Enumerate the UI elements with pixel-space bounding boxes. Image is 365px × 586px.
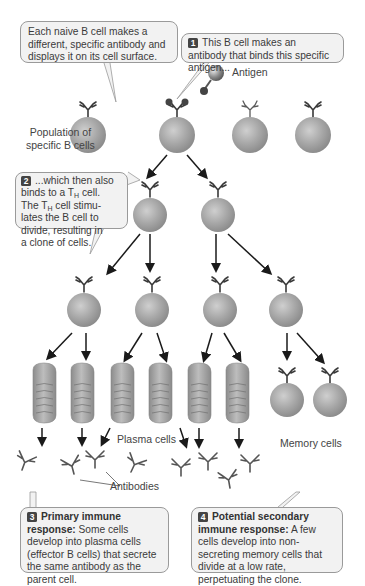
step-1-callout: 1This B cell makes an antibody that bind…	[181, 33, 344, 63]
step-4-badge: 4	[198, 512, 208, 522]
plasma-cells-label: Plasma cells	[117, 433, 176, 446]
antigen-label: Antigen	[232, 66, 268, 79]
plasma-cells	[33, 363, 249, 423]
clonal-selection-diagram: Each naive B cell makes a different, spe…	[0, 0, 365, 586]
clone-cell-gen3-4	[269, 277, 303, 327]
naive-b-cell-callout: Each naive B cell makes a different, spe…	[20, 21, 178, 63]
diagram-artwork	[0, 0, 365, 586]
clone-cell-gen2-left	[133, 182, 167, 232]
memory-cell-2	[313, 368, 347, 417]
clone-cell-gen3-1	[67, 277, 101, 327]
population-label: Population of specific B cells	[26, 126, 95, 152]
step-3-badge: 3	[27, 512, 37, 522]
step-4-callout: 4Potential secondary immune response: A …	[191, 507, 343, 573]
step-3-callout: 3Primary immune response: Some cells dev…	[20, 507, 169, 573]
step-2-callout: 2...which then also binds to a TH cell. …	[15, 172, 128, 229]
naive-b-cell-3	[232, 101, 268, 153]
memory-cells-label: Memory cells	[280, 437, 342, 450]
step-1-badge: 1	[188, 38, 198, 48]
antibodies-label: Antibodies	[110, 480, 159, 493]
clone-cell-gen3-2	[135, 277, 169, 327]
naive-b-cell-4	[295, 102, 331, 153]
memory-cell-1	[270, 368, 304, 417]
clone-cell-gen2-right	[201, 182, 235, 232]
step-2-badge: 2	[21, 176, 31, 186]
clone-cell-gen3-3	[203, 277, 237, 327]
selected-b-cell	[159, 99, 195, 154]
